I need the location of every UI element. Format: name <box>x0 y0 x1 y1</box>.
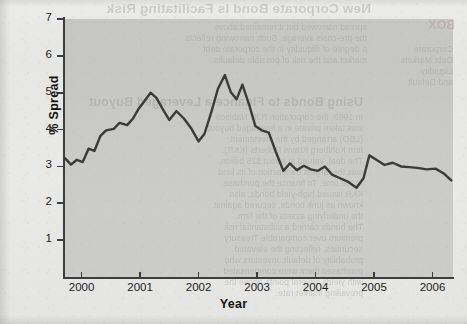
y-tick-1 <box>57 239 64 241</box>
y-tick-label-7: 7 <box>30 11 52 23</box>
x-tick-2002 <box>198 272 200 279</box>
y-tick-label-1: 1 <box>30 232 52 244</box>
x-tick-label-2005: 2005 <box>352 281 396 293</box>
plot-area <box>64 19 453 277</box>
x-axis-title: Year <box>0 297 467 311</box>
plot-area-tint <box>64 19 453 277</box>
x-tick-label-2002: 2002 <box>177 281 221 293</box>
x-tick-2000 <box>81 272 83 279</box>
x-tick-label-2003: 2003 <box>235 281 279 293</box>
x-tick-label-2000: 2000 <box>60 281 104 293</box>
x-tick-label-2004: 2004 <box>294 281 338 293</box>
x-axis-line <box>63 277 454 279</box>
y-axis-title: % Spread <box>47 45 61 165</box>
x-tick-2005 <box>373 272 375 279</box>
x-tick-2001 <box>139 272 141 279</box>
x-tick-2003 <box>256 272 258 279</box>
y-tick-3 <box>57 166 64 168</box>
y-tick-2 <box>57 202 64 204</box>
x-tick-label-2001: 2001 <box>118 281 162 293</box>
x-tick-2004 <box>315 272 317 279</box>
y-tick-label-2: 2 <box>30 195 52 207</box>
y-tick-7 <box>57 18 64 20</box>
x-tick-2006 <box>432 272 434 279</box>
x-tick-label-2006: 2006 <box>411 281 455 293</box>
